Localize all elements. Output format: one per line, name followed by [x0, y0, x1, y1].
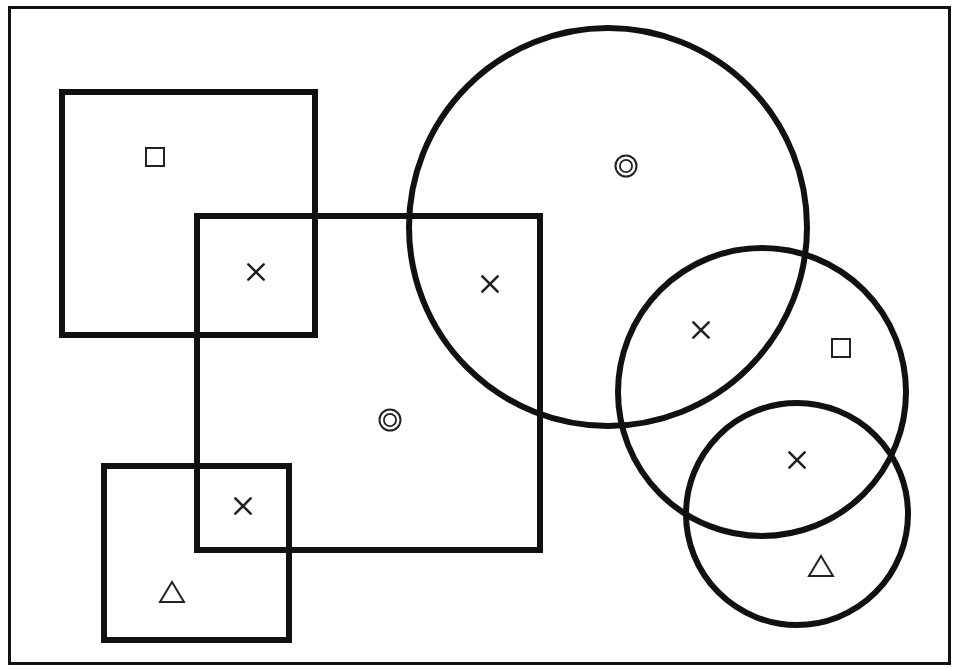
- figure-canvas: Top left squareCenter squareBottom left …: [0, 0, 959, 670]
- shapes-diagram: Top left squareCenter squareBottom left …: [0, 0, 959, 670]
